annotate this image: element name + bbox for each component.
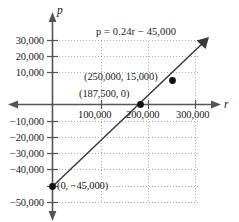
- vertical-gridlines: [102, 41, 196, 203]
- point-label-0-neg45000: (0, −45,000): [57, 181, 108, 192]
- x-axis: [8, 101, 221, 109]
- point-label-187500-0: (187,500, 0): [79, 89, 129, 100]
- y-tick-label-neg40000: −40,000: [0, 165, 44, 176]
- point-label-250000-15000: (250,000, 15,000): [84, 72, 158, 83]
- x-tick-label-100000: 100,000: [78, 110, 111, 121]
- y-tick-label-30000: 30,000: [0, 36, 44, 47]
- equation-annotation: p = 0.24r − 45,000: [96, 27, 176, 38]
- x-axis-name: r: [224, 99, 228, 111]
- data-point-0-neg45000: [49, 183, 56, 190]
- graph-figure: p r p = 0.24r − 45,000 30,000 20,000 10,…: [0, 0, 239, 222]
- y-tick-label-20000: 20,000: [0, 52, 44, 63]
- horizontal-gridlines: [53, 41, 200, 203]
- x-tick-label-300000: 300,000: [176, 110, 209, 121]
- y-axis-name: p: [57, 5, 63, 17]
- data-point-187500-0: [137, 101, 144, 108]
- y-tick-label-10000: 10,000: [0, 68, 44, 79]
- data-point-250000-15000: [169, 77, 176, 84]
- y-tick-label-neg30000: −30,000: [0, 149, 44, 160]
- y-tick-label-neg10000: −10,000: [0, 117, 44, 128]
- x-tick-label-200000: 200,000: [126, 110, 159, 121]
- y-tick-label-neg20000: −20,000: [0, 133, 44, 144]
- y-tick-label-neg50000: −50,000: [0, 198, 44, 209]
